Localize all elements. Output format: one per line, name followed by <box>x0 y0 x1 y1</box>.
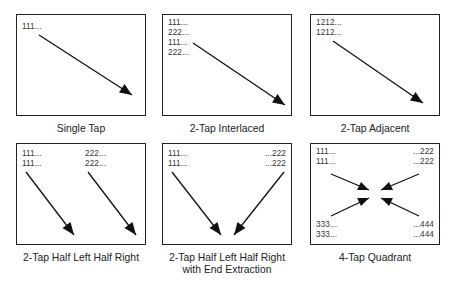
panel-caption-line-1: 2-Tap Half Left Half Right <box>162 252 292 264</box>
panel-caption: 2-Tap Half Left Half Right with End Extr… <box>162 252 292 276</box>
panel-caption: 2-Tap Adjacent <box>310 123 440 135</box>
panel-2-tap-adjacent: 1212... 1212... 2-Tap Adjacent <box>310 14 440 135</box>
scan-direction-arrows-icon <box>17 144 145 244</box>
panel-single-tap: 111... Single Tap <box>16 14 146 135</box>
scan-frame: 111... 111... 222... 222... <box>16 143 146 245</box>
panel-caption: 2-Tap Interlaced <box>162 123 292 135</box>
panel-caption: 4-Tap Quadrant <box>310 252 440 264</box>
scan-direction-arrow-icon <box>17 15 145 115</box>
panel-2-tap-half-left-half-right: 111... 111... 222... 222... 2-Tap Half L… <box>16 143 146 264</box>
scan-frame: 111... 222... 111... 222... <box>162 14 292 116</box>
scan-frame: 111... 111... ...222 ...222 333... 333..… <box>310 143 440 245</box>
panel-caption: Single Tap <box>16 123 146 135</box>
panel-4-tap-quadrant: 111... 111... ...222 ...222 333... 333..… <box>310 143 440 264</box>
panel-caption: 2-Tap Half Left Half Right <box>16 252 146 264</box>
converging-arrows-icon <box>311 144 439 244</box>
panel-caption-line-2: with End Extraction <box>162 264 292 276</box>
scan-direction-arrow-icon <box>311 15 439 115</box>
scan-frame: 111... 111... ...222 ...222 <box>162 143 292 245</box>
scan-frame: 1212... 1212... <box>310 14 440 116</box>
panel-2-tap-interlaced: 111... 222... 111... 222... 2-Tap Interl… <box>162 14 292 135</box>
scan-frame: 111... <box>16 14 146 116</box>
panel-2-tap-end-extraction: 111... 111... ...222 ...222 2-Tap Half L… <box>162 143 292 276</box>
scan-direction-arrow-icon <box>163 15 291 115</box>
scan-direction-arrows-icon <box>163 144 291 244</box>
